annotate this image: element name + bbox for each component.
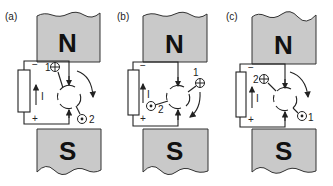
- rotation-arrow-icon: [77, 71, 93, 97]
- current-label: I: [256, 93, 259, 104]
- rotor: [268, 83, 298, 113]
- plus-terminal: +: [32, 113, 38, 124]
- current-label: I: [41, 91, 44, 102]
- current-label: I: [147, 89, 150, 100]
- rotation-arrow-icon: [190, 92, 200, 117]
- rotation-arrow-icon: [290, 72, 308, 97]
- conductor-label: 1: [45, 62, 51, 73]
- south-pole-label: S: [166, 136, 183, 166]
- conductor-cross-icon: 1: [193, 67, 205, 88]
- minus-terminal: −: [248, 62, 254, 73]
- south-pole-label: S: [275, 136, 292, 166]
- south-magnet: S: [37, 129, 101, 175]
- dc-motor-commutation-diagram: (a) N S − + I: [0, 0, 333, 186]
- panel-c: (c) N S − + I: [226, 11, 316, 173]
- conductor-dot-icon: 1: [298, 112, 315, 124]
- plus-terminal: +: [140, 113, 146, 124]
- battery: [128, 70, 139, 115]
- north-pole-label: N: [274, 30, 293, 60]
- north-magnet: N: [37, 12, 100, 62]
- panel-b: (b) N S − + I: [117, 11, 208, 175]
- minus-terminal: −: [140, 60, 146, 71]
- panel-a: (a) N S − + I: [5, 11, 101, 175]
- north-magnet: N: [252, 12, 316, 64]
- south-magnet: S: [143, 129, 208, 175]
- conductor-label: 1: [193, 67, 199, 78]
- circuit: − + I: [18, 59, 69, 124]
- conductor-dot-icon: 2: [78, 114, 96, 125]
- conductor-cross-icon: 1: [45, 62, 60, 73]
- battery: [18, 70, 30, 112]
- conductor-label: 1: [308, 112, 314, 123]
- conductor-label: 2: [89, 114, 95, 125]
- conductor-label: 2: [253, 74, 259, 85]
- battery: [236, 72, 246, 117]
- circuit: − + I: [236, 62, 285, 127]
- conductor-label: 2: [158, 104, 164, 115]
- plus-terminal: +: [248, 114, 254, 125]
- conductor-dot-icon: 2: [147, 102, 165, 116]
- conductor-cross-icon: 2: [253, 74, 269, 85]
- circuit: − + I: [128, 60, 178, 126]
- north-pole-label: N: [165, 29, 184, 59]
- south-magnet: S: [252, 129, 316, 173]
- panel-label: (b): [117, 11, 129, 22]
- north-magnet: N: [143, 12, 207, 62]
- south-pole-label: S: [59, 136, 76, 166]
- panel-label: (c): [226, 11, 238, 22]
- minus-terminal: −: [32, 59, 38, 70]
- north-pole-label: N: [58, 28, 77, 58]
- panel-label: (a): [5, 11, 17, 22]
